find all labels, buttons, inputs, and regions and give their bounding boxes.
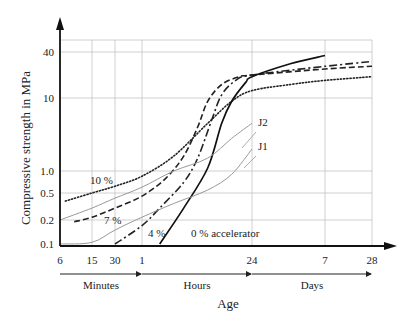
- j2-leader-line: [242, 132, 256, 148]
- strength-age-chart: 0.10.20.51.01040 61530124728 MinutesHour…: [0, 0, 416, 328]
- y-axis-label: Compressive strength in MPa: [18, 71, 33, 225]
- time-unit-arrows: MinutesHoursDays: [60, 271, 372, 291]
- x-tick-label: 1: [139, 254, 145, 266]
- y-tick-label: 1.0: [40, 165, 54, 177]
- y-tick-labels: 0.10.20.51.01040: [40, 46, 54, 250]
- series-labels: 10 %7 %4 %0 % acceleratorJ2J1: [90, 116, 268, 239]
- x-tick-label: 28: [367, 254, 379, 266]
- series-label: 4 %: [148, 227, 165, 239]
- x-tick-labels: 61530124728: [57, 254, 378, 266]
- series-label: 0 % accelerator: [191, 227, 260, 239]
- x-tick-label: 15: [87, 254, 99, 266]
- y-tick-label: 40: [43, 46, 55, 58]
- unit-label: Minutes: [83, 279, 119, 291]
- unit-label: Days: [301, 279, 324, 291]
- y-tick-label: 10: [43, 92, 55, 104]
- x-tick-label: 6: [57, 254, 63, 266]
- x-axis-arrow-icon: [384, 242, 397, 250]
- x-tick-label: 30: [110, 254, 122, 266]
- x-tick-label: 24: [247, 254, 259, 266]
- series-label: J2: [258, 116, 268, 128]
- series-line-j2: [60, 123, 252, 220]
- series-label: 7 %: [104, 214, 121, 226]
- unit-arrow-icon: [246, 271, 252, 277]
- unit-arrow-icon: [366, 271, 372, 277]
- x-axis-label: Age: [217, 296, 239, 311]
- series-label: 10 %: [90, 174, 113, 186]
- y-tick-label: 0.2: [40, 214, 54, 226]
- y-axis-arrow-icon: [56, 17, 64, 30]
- y-tick-label: 0.1: [40, 238, 54, 250]
- series-line-4: [115, 62, 372, 245]
- y-tick-label: 0.5: [40, 187, 54, 199]
- unit-label: Hours: [184, 279, 211, 291]
- unit-arrow-icon: [136, 271, 142, 277]
- x-tick-label: 7: [322, 254, 328, 266]
- series-line-7: [74, 66, 372, 222]
- series-label: J1: [258, 140, 268, 152]
